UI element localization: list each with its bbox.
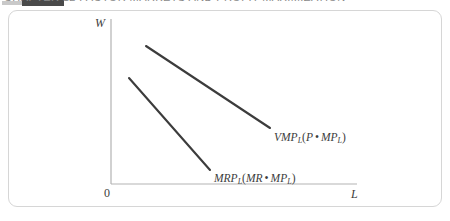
curve-vmp-l — [146, 46, 270, 128]
origin-label: 0 — [104, 186, 110, 201]
mrp-operator: • — [263, 172, 271, 184]
figure-card: W L 0 VMPL(P•MPL) MRPL(MR•MPL) — [8, 10, 442, 207]
curve-label-vmp-l: VMPL(P•MPL) — [274, 131, 346, 145]
mrp-term-left: MR — [246, 172, 263, 184]
x-axis-label: L — [351, 187, 358, 202]
vmp-operator: • — [313, 131, 321, 143]
vmp-name: VMP — [274, 131, 298, 143]
curve-label-mrp-l: MRPL(MR•MPL) — [214, 172, 295, 186]
mrp-term-right: MP — [271, 172, 288, 184]
vmp-paren-close: ) — [342, 131, 346, 143]
vmp-term-right: MP — [321, 131, 338, 143]
vmp-term-left: P — [306, 131, 313, 143]
header-text: CHAPTER 12 FACTOR MARKETS AND PROFIT MAX… — [4, 0, 346, 3]
y-axis-label: W — [95, 16, 105, 31]
mrp-name: MRP — [214, 172, 238, 184]
curve-mrp-l — [129, 78, 210, 170]
mrp-paren-close: ) — [292, 172, 296, 184]
truncated-header-strip: CHAPTER 12 FACTOR MARKETS AND PROFIT MAX… — [0, 0, 450, 9]
